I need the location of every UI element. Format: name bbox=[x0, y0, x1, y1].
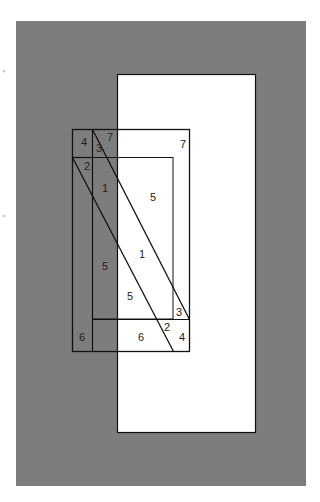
region-label-r4-top: 4 bbox=[81, 136, 87, 148]
region-label-r6-left: 6 bbox=[79, 331, 85, 343]
region-label-r5-left: 5 bbox=[102, 260, 108, 272]
scan-mark bbox=[3, 215, 6, 218]
region-label-r6-middle: 6 bbox=[138, 331, 144, 343]
region-label-r7-left: 7 bbox=[107, 131, 113, 143]
region-label-r3-right: 3 bbox=[176, 306, 182, 318]
partition-diagram: 437721515532664 bbox=[0, 0, 320, 502]
region-label-r7-right: 7 bbox=[180, 138, 186, 150]
region-label-r4-right: 4 bbox=[179, 331, 185, 343]
region-label-r5-right: 5 bbox=[150, 191, 156, 203]
region-label-r2-right: 2 bbox=[164, 321, 170, 333]
region-label-r1-upper: 1 bbox=[102, 182, 108, 194]
region-label-r5-lower: 5 bbox=[127, 290, 133, 302]
region-label-r3-top: 3 bbox=[96, 142, 102, 154]
region-label-r2-left: 2 bbox=[84, 160, 90, 172]
scan-mark bbox=[3, 70, 6, 73]
region-label-r1-middle: 1 bbox=[139, 248, 145, 260]
